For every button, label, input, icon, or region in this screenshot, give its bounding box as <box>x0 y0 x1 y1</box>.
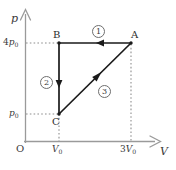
tick-p0-symbol: p <box>9 108 15 118</box>
diagram-canvas <box>0 0 176 170</box>
pv-diagram-figure: p V O 4p0 p0 V0 3V0 A B C 1 2 3 <box>0 0 176 170</box>
point-b-label: B <box>53 30 60 40</box>
tick-label-4p0: 4p0 <box>3 38 18 47</box>
process-1-arrowhead <box>96 40 104 47</box>
tick-label-p0: p0 <box>9 109 19 118</box>
tick-4p0-symbol: p <box>9 37 15 47</box>
process-2-arrowhead <box>56 80 63 88</box>
tick-label-3v0: 3V0 <box>120 145 136 154</box>
point-a-label: A <box>131 30 138 40</box>
process-3-badge: 3 <box>98 85 111 98</box>
tick-p0-subscript: 0 <box>15 112 19 119</box>
origin-label: O <box>16 144 24 154</box>
tick-label-v0: V0 <box>52 145 62 154</box>
tick-4p0-subscript: 0 <box>15 41 19 48</box>
point-c-label: C <box>52 117 60 127</box>
tick-3v0-subscript: 0 <box>132 148 136 155</box>
tick-v0-symbol: V <box>52 144 59 154</box>
process-2-badge: 2 <box>40 76 53 89</box>
process-1-badge: 1 <box>92 25 105 38</box>
v-axis-label: V <box>160 146 168 157</box>
point-b-dot <box>57 41 60 44</box>
process-paths-group <box>56 40 131 114</box>
tick-v0-subscript: 0 <box>59 148 63 155</box>
p-axis-label: p <box>11 13 18 24</box>
point-a-dot <box>129 41 132 44</box>
